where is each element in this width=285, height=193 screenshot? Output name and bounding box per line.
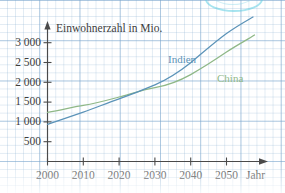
x-axis-arrowhead	[259, 158, 268, 165]
x-tick-label-2010: 2010	[63, 170, 103, 182]
x-tick-label-2000: 2000	[28, 170, 68, 182]
y-axis-title: Einwohnerzahl in Mio.	[56, 23, 162, 35]
y-tick-label-3000: 3 000	[0, 37, 41, 49]
y-tick-label-500: 500	[0, 136, 41, 148]
x-tick-label-2050: 2050	[207, 170, 247, 182]
y-tick-label-1500: 1 500	[0, 96, 41, 108]
x-tick-label-2020: 2020	[99, 170, 139, 182]
x-tick-label-2040: 2040	[171, 170, 211, 182]
y-axis-arrowhead	[44, 21, 50, 30]
series-label-china: China	[217, 73, 243, 84]
x-axis	[48, 158, 269, 165]
x-axis-title: Jahr	[246, 170, 265, 182]
y-tick-label-2500: 2 500	[0, 57, 41, 69]
series-label-indien: Indien	[168, 54, 196, 65]
chart-canvas: Einwohnerzahl in Mio. 3 000 2 500 2 000 …	[0, 0, 285, 193]
y-tick-label-1000: 1 000	[0, 116, 41, 128]
x-tick-label-2030: 2030	[135, 170, 175, 182]
y-tick-label-2000: 2 000	[0, 77, 41, 89]
